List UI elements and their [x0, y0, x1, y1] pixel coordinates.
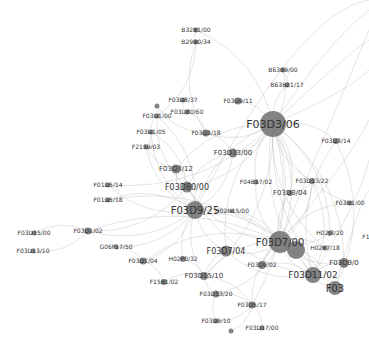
node-label: F03D1/04	[128, 257, 157, 264]
node-label: F03D7/04	[207, 247, 246, 256]
node-label: F21S9/03	[132, 143, 161, 150]
node-label: F03	[326, 283, 344, 294]
edge-layer	[33, 0, 369, 331]
node-label: F03D9/25	[171, 205, 220, 216]
node-label: H02J3/20	[316, 229, 344, 237]
node-label: F03D11/02	[288, 270, 338, 280]
node-label: F03D80/60	[171, 108, 204, 115]
graph-node[interactable]	[155, 104, 160, 109]
node-label: F01D5/18	[93, 196, 122, 203]
node-label: F03D1/00	[335, 199, 364, 206]
graph-edge	[195, 153, 233, 210]
node-label: F03D3/06	[246, 118, 300, 131]
node-label: F04B17/02	[240, 178, 273, 185]
graph-edge	[157, 42, 196, 116]
node-label: H02P0/32	[168, 255, 197, 262]
node-label: F03D15/00	[18, 229, 51, 236]
node-label: F03D8/37	[168, 96, 197, 103]
node-label: F03D3/04	[273, 189, 308, 197]
node-label: B32B1/00	[181, 26, 211, 33]
graph-edge	[273, 124, 291, 242]
node-label: F03D1/00	[142, 112, 171, 119]
node-label: F03D9/10	[201, 317, 230, 324]
node-label: F03D3/14	[321, 137, 350, 144]
graph-edge	[151, 132, 187, 187]
node-label: F03D5/17	[237, 301, 266, 308]
node-label: H02N15/00	[215, 207, 249, 214]
graph-edge	[312, 181, 324, 275]
graph-edge	[189, 42, 206, 133]
graph-edge	[157, 116, 187, 187]
node-label: F03D7/00	[256, 237, 305, 248]
node-label: F15B1/02	[150, 278, 179, 285]
node-label: F03D80/00	[165, 183, 209, 192]
node-label: F03D9/0	[329, 259, 359, 267]
node-label: F03D1/05	[136, 128, 165, 135]
node-label: F03D1/02	[73, 227, 102, 234]
node-label: F03D17/00	[246, 324, 279, 331]
node-label: F03D15/10	[185, 272, 224, 280]
node-label: B63B21/17	[270, 81, 303, 88]
node-label: F03D3/12	[159, 165, 193, 173]
node-label: H02K7/18	[310, 244, 340, 251]
network-graph: B32B1/00B29B0/34B63B9/00B63B21/17F03D3/0…	[0, 0, 369, 349]
graph-edge	[116, 210, 195, 247]
node-label: F1	[362, 233, 369, 240]
node-label: F03D13/00	[214, 149, 253, 157]
node-label: F03D9/11	[223, 97, 252, 104]
node-label: G06F17/50	[99, 243, 132, 250]
graph-edge	[280, 30, 369, 242]
node-label: F03D9/02	[247, 261, 276, 268]
node-label: F03D13/22	[296, 177, 329, 184]
graph-node[interactable]	[229, 329, 234, 334]
node-label: F03D13/10	[17, 247, 50, 254]
node-label: B63B9/00	[268, 66, 298, 73]
graph-edge	[195, 0, 369, 210]
node-label: F03D13/20	[200, 290, 233, 297]
node-label: F01D5/14	[93, 181, 122, 188]
node-label: B29B0/34	[181, 38, 211, 45]
label-layer: B32B1/00B29B0/34B63B9/00B63B21/17F03D3/0…	[17, 26, 369, 331]
node-label: F03D3/18	[191, 129, 220, 136]
